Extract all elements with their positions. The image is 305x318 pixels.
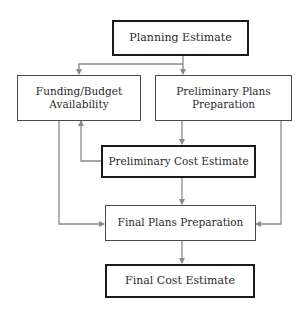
node-planning-estimate: Planning Estimate [112, 20, 249, 56]
node-preliminary-plans-preparation: Preliminary Plans Preparation [155, 75, 292, 121]
node-label: Planning Estimate [129, 31, 231, 45]
edge-prelim-plans-to-final-plans [256, 120, 281, 224]
node-preliminary-cost-estimate: Preliminary Cost Estimate [101, 145, 256, 178]
node-label-line2: Preparation [192, 98, 255, 111]
edge-prelim-cost-to-funding [81, 121, 101, 161]
cost-estimate-flowchart: Planning Estimate Funding/Budget Availab… [0, 0, 305, 318]
node-label-line2: Availability [49, 98, 108, 111]
node-label: Final Cost Estimate [125, 274, 235, 288]
node-final-cost-estimate: Final Cost Estimate [105, 264, 255, 298]
node-funding-budget-availability: Funding/Budget Availability [17, 75, 141, 121]
node-label-line1: Funding/Budget [36, 85, 122, 98]
node-label: Final Plans Preparation [118, 216, 244, 229]
edge-planning-to-funding [79, 64, 183, 74]
node-label: Preliminary Cost Estimate [108, 155, 248, 168]
node-label-line1: Preliminary Plans [176, 85, 270, 98]
node-final-plans-preparation: Final Plans Preparation [105, 205, 256, 241]
